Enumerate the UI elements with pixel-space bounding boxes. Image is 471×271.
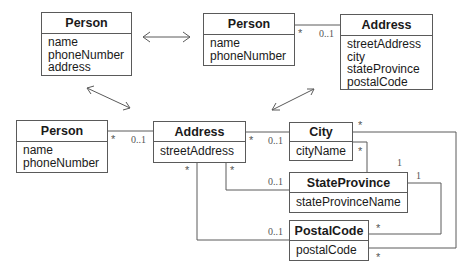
multiplicity-label: * bbox=[358, 145, 362, 157]
multiplicity-label: 0..1 bbox=[131, 134, 146, 145]
attribute: address bbox=[48, 61, 131, 74]
class-attributes: stateProvinceName bbox=[290, 193, 407, 211]
attribute: postalCode bbox=[296, 244, 368, 257]
multiplicity-label: * bbox=[376, 251, 380, 263]
class-name: PostalCode bbox=[290, 221, 368, 241]
multiplicity-label: * bbox=[111, 133, 115, 145]
class-state-province[interactable]: StateProvince stateProvinceName bbox=[289, 172, 408, 213]
attribute: streetAddress bbox=[347, 38, 432, 51]
class-name: Person bbox=[17, 121, 107, 142]
class-attributes: streetAddress city stateProvince postalC… bbox=[341, 36, 432, 90]
multiplicity-label: * bbox=[249, 134, 253, 146]
multiplicity-label: 1 bbox=[397, 157, 402, 168]
class-name: City bbox=[290, 123, 352, 142]
class-attributes: name phoneNumber address bbox=[42, 34, 131, 76]
attribute: name bbox=[210, 37, 294, 50]
attribute: streetAddress bbox=[160, 145, 245, 158]
class-name: StateProvince bbox=[290, 173, 407, 193]
multiplicity-label: * bbox=[230, 164, 234, 176]
class-person-2[interactable]: Person name phoneNumber bbox=[203, 13, 295, 66]
class-address-2[interactable]: Address streetAddress bbox=[153, 121, 246, 163]
multiplicity-label: * bbox=[358, 119, 362, 131]
class-person-3[interactable]: Person name phoneNumber bbox=[16, 120, 108, 173]
attribute: stateProvinceName bbox=[296, 196, 407, 209]
multiplicity-label: 0..1 bbox=[268, 135, 283, 146]
class-city[interactable]: City cityName bbox=[289, 122, 353, 161]
attribute: postalCode bbox=[347, 76, 432, 89]
attribute: phoneNumber bbox=[210, 50, 294, 63]
class-attributes: name phoneNumber bbox=[204, 35, 294, 64]
attribute: stateProvince bbox=[347, 63, 432, 76]
multiplicity-label: * bbox=[298, 27, 302, 39]
attribute: name bbox=[23, 144, 107, 157]
class-attributes: cityName bbox=[290, 142, 352, 160]
multiplicity-label: * bbox=[185, 164, 189, 176]
multiplicity-label: 0..1 bbox=[268, 176, 283, 187]
multiplicity-label: * bbox=[376, 222, 380, 234]
multiplicity-label: 1 bbox=[416, 170, 421, 181]
class-postal-code[interactable]: PostalCode postalCode bbox=[289, 220, 369, 261]
class-name: Person bbox=[204, 14, 294, 35]
class-name: Address bbox=[341, 15, 432, 36]
class-person-1[interactable]: Person name phoneNumber address bbox=[41, 12, 132, 76]
class-attributes: postalCode bbox=[290, 241, 368, 259]
class-attributes: name phoneNumber bbox=[17, 142, 107, 171]
attribute: cityName bbox=[296, 145, 352, 158]
attribute: name bbox=[48, 36, 131, 49]
class-name: Address bbox=[154, 122, 245, 142]
class-attributes: streetAddress bbox=[154, 142, 245, 160]
class-address-1[interactable]: Address streetAddress city stateProvince… bbox=[340, 14, 433, 90]
multiplicity-label: 0..1 bbox=[319, 28, 334, 39]
multiplicity-label: 0..1 bbox=[268, 226, 283, 237]
attribute: phoneNumber bbox=[23, 157, 107, 170]
class-name: Person bbox=[42, 13, 131, 34]
